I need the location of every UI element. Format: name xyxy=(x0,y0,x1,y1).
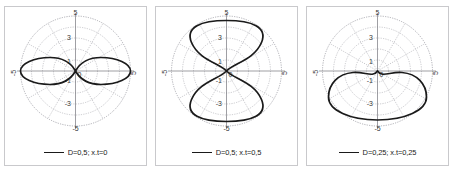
svg-text:5: 5 xyxy=(74,9,78,16)
panel-2-tick-labels: 5 3 1 -1 -3 -5 0 -5 5 xyxy=(161,9,288,132)
svg-text:3: 3 xyxy=(369,34,373,41)
svg-text:5: 5 xyxy=(281,71,288,75)
panel-2-polar-svg: 5 3 1 -1 -3 -5 0 -5 5 xyxy=(156,7,297,140)
panel-2-plot-area: 5 3 1 -1 -3 -5 0 -5 5 xyxy=(156,7,297,140)
panel-2-legend-label: D=0,5; x.t=0,5 xyxy=(216,148,262,157)
svg-text:1: 1 xyxy=(369,58,373,65)
svg-text:-5: -5 xyxy=(374,125,380,132)
polar-panel-2: 5 3 1 -1 -3 -5 0 -5 5 xyxy=(151,0,302,173)
panel-1-legend: D=0,5; x.t=0 xyxy=(5,140,146,164)
polar-plot-figure: 5 3 1 -1 -3 -5 0 -5 5 xyxy=(0,0,455,173)
panel-3-legend: D=0,25; x.t=0,25 xyxy=(307,140,448,164)
svg-text:-5: -5 xyxy=(223,125,229,132)
svg-text:1: 1 xyxy=(218,58,222,65)
panel-1-legend-label: D=0,5; x.t=0 xyxy=(68,148,108,157)
panel-1-tick-labels: 5 3 1 -1 -3 -5 0 -5 5 xyxy=(10,9,137,132)
svg-text:-5: -5 xyxy=(10,70,17,76)
panel-3-legend-label: D=0,25; x.t=0,25 xyxy=(363,148,417,157)
svg-text:5: 5 xyxy=(225,9,229,16)
panel-3-polar-svg: 5 3 1 -1 -3 -5 0 -5 5 xyxy=(307,7,448,140)
svg-text:-3: -3 xyxy=(367,100,373,107)
svg-text:5: 5 xyxy=(432,71,439,75)
polar-panel-1: 5 3 1 -1 -3 -5 0 -5 5 xyxy=(0,0,151,173)
panel-1-polar-svg: 5 3 1 -1 -3 -5 0 -5 5 xyxy=(5,7,146,140)
svg-text:3: 3 xyxy=(218,34,222,41)
svg-text:3: 3 xyxy=(67,34,71,41)
svg-text:-5: -5 xyxy=(72,125,78,132)
polar-panel-3: 5 3 1 -1 -3 -5 0 -5 5 xyxy=(302,0,453,173)
svg-text:-3: -3 xyxy=(65,100,71,107)
panel-3-legend-line-swatch xyxy=(339,152,359,153)
panel-3-tick-labels: 5 3 1 -1 -3 -5 0 -5 5 xyxy=(312,9,439,132)
panel-1-plot-area: 5 3 1 -1 -3 -5 0 -5 5 xyxy=(5,7,146,140)
panel-2-frame: 5 3 1 -1 -3 -5 0 -5 5 xyxy=(155,6,298,166)
panel-3-plot-area: 5 3 1 -1 -3 -5 0 -5 5 xyxy=(307,7,448,140)
panel-1-frame: 5 3 1 -1 -3 -5 0 -5 5 xyxy=(4,6,147,166)
svg-text:-5: -5 xyxy=(312,70,319,76)
svg-text:-3: -3 xyxy=(216,100,222,107)
panel-2-legend-line-swatch xyxy=(192,152,212,153)
svg-text:5: 5 xyxy=(376,9,380,16)
panel-1-legend-line-swatch xyxy=(44,152,64,153)
svg-text:-5: -5 xyxy=(161,70,168,76)
panel-2-legend: D=0,5; x.t=0,5 xyxy=(156,140,297,164)
svg-text:-1: -1 xyxy=(367,77,373,84)
panel-3-frame: 5 3 1 -1 -3 -5 0 -5 5 xyxy=(306,6,449,166)
